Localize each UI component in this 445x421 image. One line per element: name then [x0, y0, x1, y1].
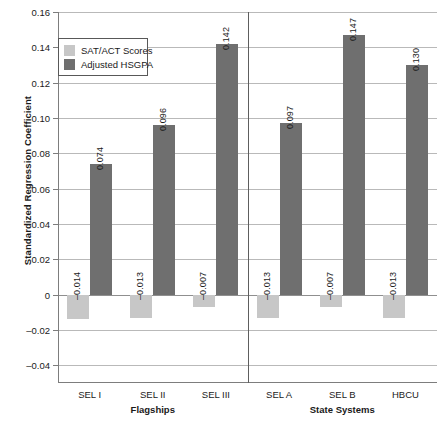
bar-value-label: 0.096	[158, 108, 168, 131]
bar-value-label: –0.013	[262, 272, 272, 300]
bar-value-label: 0.097	[285, 106, 295, 129]
chart-legend: SAT/ACT Scores Adjusted HSGPA	[58, 38, 148, 76]
y-axis-tick-label: 0	[45, 289, 50, 300]
legend-swatch-icon-hsgpa	[64, 59, 75, 70]
y-axis-tick-label: –0.04	[26, 360, 50, 371]
bar-chart: Standardized Regression Coefficient 0.16…	[0, 0, 445, 421]
legend-label-hsgpa: Adjusted HSGPA	[81, 59, 153, 70]
bar-value-label: 0.147	[348, 18, 358, 41]
y-axis-tick-label: 0.02	[32, 254, 51, 265]
x-axis-category-label: SEL A	[266, 389, 292, 400]
bar-value-label: –0.014	[72, 272, 82, 300]
legend-swatch-icon-sat-act	[64, 45, 75, 56]
x-axis-category-label: SEL I	[78, 389, 101, 400]
y-axis-tick-label: 0.04	[32, 219, 51, 230]
bar-value-label: 0.130	[411, 48, 421, 71]
bar-hsgpa-hbcu	[406, 65, 428, 295]
group-separator	[248, 12, 249, 383]
y-axis-tick-label: 0.06	[32, 183, 51, 194]
legend-item-hsgpa: Adjusted HSGPA	[64, 57, 142, 71]
y-axis-tick-label: 0.10	[32, 113, 51, 124]
bar-hsgpa-sel-iii	[216, 44, 238, 295]
bar-value-label: –0.007	[198, 272, 208, 300]
bar-hsgpa-sel-a	[280, 123, 302, 294]
x-axis-category-label: SEL B	[329, 389, 356, 400]
x-axis-group-label: Flagships	[131, 404, 175, 415]
bar-hsgpa-sel-i	[90, 164, 112, 295]
legend-label-sat-act: SAT/ACT Scores	[81, 45, 152, 56]
y-axis-tick-label: 0.14	[32, 42, 51, 53]
legend-item-sat-act: SAT/ACT Scores	[64, 43, 142, 57]
x-axis-category-label: HBCU	[392, 389, 419, 400]
x-axis-group-label: State Systems	[310, 404, 375, 415]
bar-value-label: –0.013	[135, 272, 145, 300]
y-axis-tick-label: 0.08	[32, 148, 51, 159]
bar-value-label: 0.142	[221, 27, 231, 50]
bar-hsgpa-sel-b	[343, 35, 365, 295]
y-axis-tick-label: 0.16	[32, 7, 51, 18]
bar-value-label: 0.074	[95, 147, 105, 170]
x-axis-category-label: SEL III	[202, 389, 230, 400]
bar-hsgpa-sel-ii	[153, 125, 175, 295]
bar-value-label: –0.007	[325, 272, 335, 300]
y-axis-tick-label: 0.12	[32, 77, 51, 88]
x-axis-category-label: SEL II	[140, 389, 166, 400]
bar-value-label: –0.013	[388, 272, 398, 300]
y-axis-tick-label: –0.02	[26, 325, 50, 336]
